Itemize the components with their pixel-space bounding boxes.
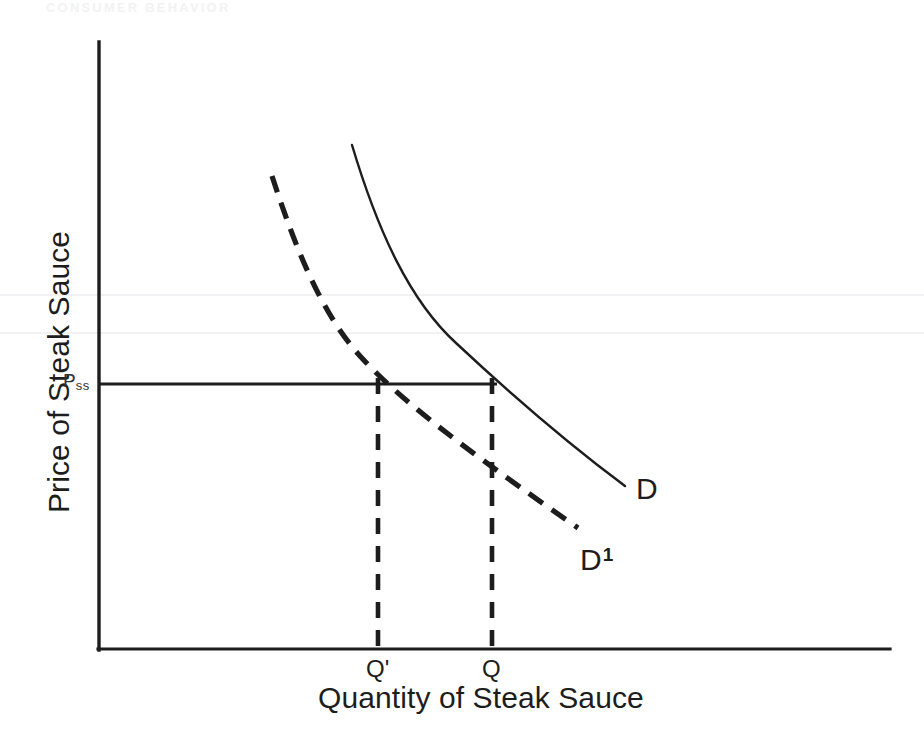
figure-canvas [0, 0, 924, 753]
demand-curve-label: D [636, 474, 658, 504]
price-level-letter: P [63, 370, 76, 391]
demand-shifted-letter: D [580, 543, 602, 576]
page-header-bleed-text: CONSUMER BEHAVIOR [46, 1, 231, 14]
scan-artifact-lines [0, 295, 924, 333]
demand-curve-shifted [272, 176, 578, 528]
x-tick-label-q: Q [482, 657, 501, 681]
demand-shifted-superscript: 1 [603, 544, 614, 565]
demand-curve-shifted-label: D1 [580, 543, 612, 575]
demand-curve [352, 145, 625, 486]
x-tick-label-q-shifted: Q' [366, 657, 389, 681]
x-axis-title: Quantity of Steak Sauce [318, 683, 644, 713]
demand-shift-figure: CONSUMER BEHAVIOR Price of Steak Sauce Q… [0, 0, 924, 753]
price-level-label: Pss [63, 371, 90, 390]
price-level-subscript: ss [76, 378, 90, 393]
